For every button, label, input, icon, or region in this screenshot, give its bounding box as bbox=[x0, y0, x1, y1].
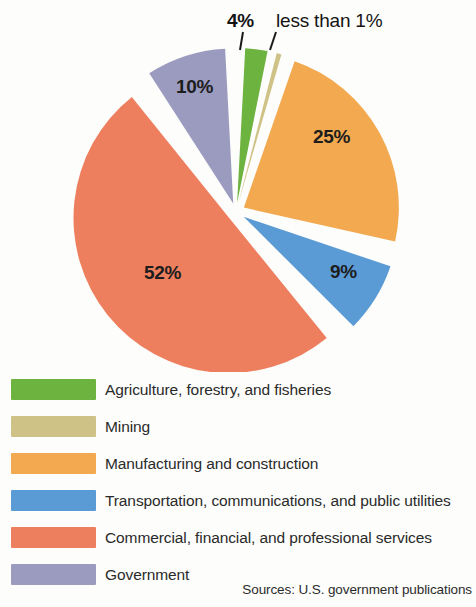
legend-item[interactable]: Agriculture, forestry, and fisheries bbox=[0, 375, 476, 405]
leader-line-agriculture bbox=[240, 32, 243, 50]
callout-value-mining: less than 1% bbox=[276, 10, 382, 32]
slice-value-transportation: 9% bbox=[330, 261, 357, 283]
legend-color-swatch bbox=[11, 416, 96, 437]
legend-color-swatch bbox=[11, 379, 96, 400]
legend-item-label: Transportation, communications, and publ… bbox=[105, 486, 451, 516]
source-note: Sources: U.S. government publications bbox=[242, 582, 472, 597]
pie-slice-2 bbox=[244, 61, 399, 241]
legend-color-swatch bbox=[11, 564, 96, 585]
slice-value-commercial: 52% bbox=[144, 262, 181, 284]
slice-value-government: 10% bbox=[176, 76, 213, 98]
legend-color-swatch bbox=[11, 527, 96, 548]
pie-chart-figure: 4% less than 1% 25% 9% 52% 10% Agricultu… bbox=[0, 0, 476, 607]
legend-item[interactable]: Mining bbox=[0, 412, 476, 442]
pie-chart-svg bbox=[0, 0, 476, 372]
chart-legend: Agriculture, forestry, and fisheriesMini… bbox=[0, 375, 476, 575]
legend-item[interactable]: Manufacturing and construction bbox=[0, 449, 476, 479]
pie-chart-area: 4% less than 1% 25% 9% 52% 10% bbox=[0, 0, 476, 372]
legend-item-label: Government bbox=[105, 560, 189, 590]
legend-item-label: Commercial, financial, and professional … bbox=[105, 523, 432, 553]
leader-line-mining bbox=[270, 32, 276, 50]
callout-value-agriculture: 4% bbox=[227, 10, 254, 32]
legend-item-label: Mining bbox=[105, 412, 150, 442]
legend-color-swatch bbox=[11, 453, 96, 474]
pie-slice-group bbox=[73, 48, 398, 372]
slice-value-manufacturing: 25% bbox=[313, 126, 350, 148]
legend-item-label: Manufacturing and construction bbox=[105, 449, 318, 479]
legend-item[interactable]: Transportation, communications, and publ… bbox=[0, 486, 476, 516]
legend-item[interactable]: Commercial, financial, and professional … bbox=[0, 523, 476, 553]
legend-item-label: Agriculture, forestry, and fisheries bbox=[105, 375, 331, 405]
legend-color-swatch bbox=[11, 490, 96, 511]
